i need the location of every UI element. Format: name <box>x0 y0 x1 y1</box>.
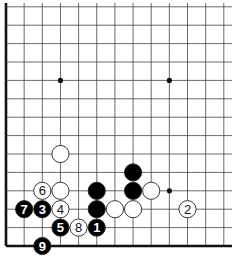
white-stone-icon <box>52 145 69 162</box>
white-stone-icon <box>124 201 141 218</box>
star-point-icon <box>167 78 172 83</box>
move-number-label: 4 <box>57 202 64 217</box>
black-stone-move-7: 7 <box>16 201 33 218</box>
white-stone <box>106 201 123 218</box>
move-number-label: 3 <box>39 202 46 217</box>
black-stone <box>88 201 105 218</box>
white-stone <box>124 201 141 218</box>
star-point-icon <box>167 188 172 193</box>
move-number-label: 8 <box>75 220 82 235</box>
black-stone <box>124 182 141 199</box>
white-stone <box>143 182 160 199</box>
white-stone-move-2: 2 <box>179 201 196 218</box>
black-stone <box>124 164 141 181</box>
white-stone-move-6: 6 <box>34 182 51 199</box>
black-stone-icon <box>124 164 141 181</box>
white-stone-move-4: 4 <box>52 201 69 218</box>
star-point-icon <box>58 78 63 83</box>
go-board: 673425819 <box>0 0 236 262</box>
white-stone-icon <box>143 182 160 199</box>
white-stone-icon <box>106 201 123 218</box>
black-stone-icon <box>88 201 105 218</box>
white-stone <box>52 145 69 162</box>
black-stone-move-1: 1 <box>88 219 105 236</box>
black-stone-icon <box>88 182 105 199</box>
move-number-label: 1 <box>93 220 100 235</box>
black-stone <box>88 182 105 199</box>
black-stone-move-9: 9 <box>34 237 51 254</box>
move-number-label: 7 <box>21 202 28 217</box>
black-stone-icon <box>124 182 141 199</box>
move-number-label: 6 <box>39 183 46 198</box>
black-stone-move-5: 5 <box>52 219 69 236</box>
white-stone <box>52 182 69 199</box>
black-stone-move-3: 3 <box>34 201 51 218</box>
white-stone-move-8: 8 <box>70 219 87 236</box>
move-number-label: 5 <box>57 220 64 235</box>
move-number-label: 9 <box>39 239 46 254</box>
move-number-label: 2 <box>184 202 191 217</box>
white-stone-icon <box>52 182 69 199</box>
